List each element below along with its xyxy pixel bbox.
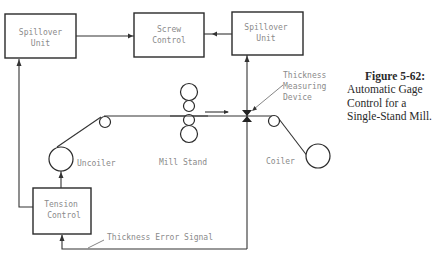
- arrowhead-icon: [212, 32, 217, 37]
- arrow-spillover-left-to-screw: [76, 34, 134, 39]
- screw-control-label-2: Control: [152, 36, 186, 45]
- arrowhead-icon: [224, 110, 229, 114]
- thickness-device-label-2: Measuring: [283, 82, 327, 91]
- sensor-to-spillover-line: [245, 55, 250, 249]
- top-work-roll: [184, 101, 195, 112]
- figure-number: Figure 5-62:: [347, 70, 443, 83]
- strip-direction-arrow: [205, 110, 229, 114]
- arrowhead-icon: [60, 235, 65, 242]
- spillover-right-label-1: Spillover: [244, 23, 288, 32]
- tension-control-block: Tension Control: [33, 188, 91, 234]
- arrowhead-icon: [17, 60, 22, 67]
- arrow-tension-to-uncoiler: [59, 171, 64, 188]
- arrow-spillover-right-to-screw: [204, 32, 232, 37]
- spillover-left-label-2: Unit: [31, 39, 50, 48]
- mill-stand-label: Mill Stand: [159, 158, 207, 167]
- screw-control-block: Screw Control: [134, 13, 204, 57]
- thickness-measuring-device: Thickness Measuring Device: [242, 71, 327, 122]
- tension-control-label-2: Control: [47, 211, 81, 220]
- agc-diagram: Spillover Unit Screw Control Spillover U…: [0, 0, 446, 258]
- caption-line-1: Automatic Gage: [347, 83, 443, 96]
- top-backup-roll: [181, 84, 198, 101]
- thickness-device-label-3: Device: [283, 93, 312, 102]
- idler-roller-right: [269, 116, 280, 127]
- idler-roller-left: [100, 117, 111, 128]
- caption-line-2: Control for a: [347, 97, 443, 110]
- tension-control-label-1: Tension: [44, 200, 78, 209]
- feedback-line-left: [17, 59, 34, 207]
- spillover-unit-left-block: Spillover Unit: [5, 14, 76, 58]
- thickness-device-label-1: Thickness: [283, 71, 327, 80]
- uncoiler: Uncoiler: [49, 147, 116, 171]
- spillover-unit-right-block: Spillover Unit: [232, 12, 303, 55]
- coiler-label: Coiler: [266, 157, 295, 166]
- spillover-left-label-1: Spillover: [19, 28, 63, 37]
- arrowhead-icon: [128, 34, 133, 39]
- spillover-right-label-2: Unit: [256, 34, 275, 43]
- thickness-error-signal-label: Thickness Error Signal: [107, 233, 213, 242]
- bottom-backup-roll: [181, 126, 198, 143]
- coiler: Coiler: [266, 144, 330, 168]
- figure-caption: Figure 5-62: Automatic Gage Control for …: [347, 70, 443, 123]
- caption-line-3: Single-Stand Mill.: [347, 110, 443, 123]
- screw-control-label-1: Screw: [157, 25, 181, 34]
- mill-stand: Mill Stand: [159, 84, 208, 168]
- arrowhead-icon: [245, 56, 250, 63]
- uncoiler-label: Uncoiler: [77, 159, 116, 168]
- arrowhead-icon: [59, 172, 64, 178]
- thickness-error-signal-line: Thickness Error Signal: [60, 233, 248, 249]
